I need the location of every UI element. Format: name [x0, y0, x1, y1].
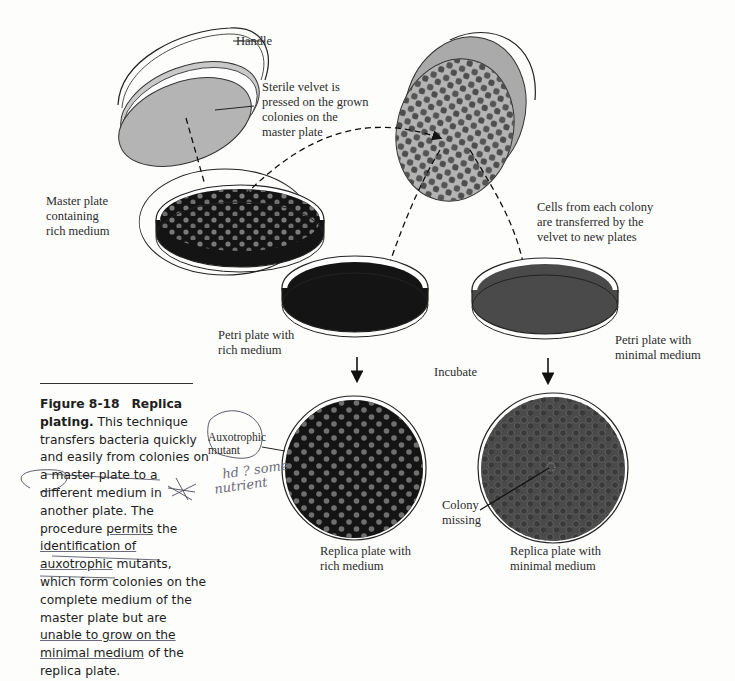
replica-minimal-label: Replica plate with minimal medium [510, 544, 601, 574]
caption-divider [40, 383, 193, 384]
velvet-label: Sterile velvet is pressed on the grown c… [262, 80, 369, 140]
velvet-stamp-left [106, 28, 272, 183]
colony-missing-label: Colony missing [442, 498, 481, 528]
auxotrophic-mutant-label: Auxotrophic mutant [208, 431, 266, 457]
figure-number: Figure 8-18 [40, 397, 120, 411]
master-plate-label: Master plate containing rich medium [46, 194, 110, 239]
caption-underlined-identification: identification of [40, 539, 136, 553]
cells-transfer-label: Cells from each colony are transferred b… [537, 200, 653, 245]
caption-underlined-unable: unable to grow on the [40, 628, 176, 642]
caption-underlined-permits: permits [106, 522, 153, 536]
handle-label: Handle [236, 34, 272, 49]
incubate-label: Incubate [434, 365, 477, 380]
master-plate [139, 169, 324, 275]
replica-plate-minimal [478, 393, 628, 543]
figure-caption: Figure 8-18 Replica plating. This techni… [40, 396, 210, 681]
petri-plate-minimal [472, 258, 618, 339]
caption-underlined-minimal: minimal medium [40, 646, 144, 660]
petri-plate-rich [282, 256, 428, 337]
petri-rich-label: Petri plate with rich medium [218, 328, 294, 358]
replica-rich-label: Replica plate with rich medium [320, 544, 411, 574]
caption-text-2: the [153, 522, 177, 536]
petri-minimal-label: Petri plate with minimal medium [615, 333, 701, 363]
caption-underlined-auxotrophic: auxotrophic [40, 557, 113, 571]
velvet-stamp-right [380, 23, 542, 215]
replica-plate-rich [282, 396, 426, 540]
missing-colony-spot [547, 463, 555, 471]
caption-text-1: This technique transfers bacteria quickl… [40, 415, 209, 536]
